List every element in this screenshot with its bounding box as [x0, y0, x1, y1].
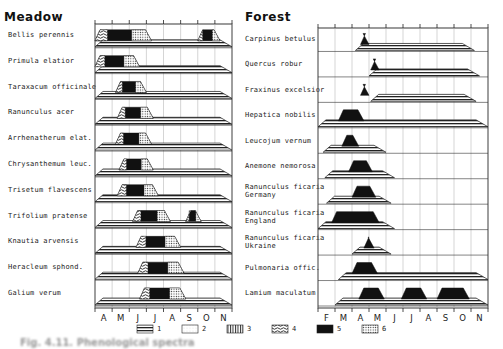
legend-key-3: 3: [247, 325, 251, 333]
legend: [137, 325, 378, 333]
phenology-chart: [0, 0, 503, 349]
figure-caption: Fig. 4.11. Phenological spectra: [20, 337, 195, 348]
legend-key-2: 2: [202, 325, 206, 333]
legend-key-6: 6: [382, 325, 386, 333]
legend-key-4: 4: [292, 325, 296, 333]
legend-key-5: 5: [337, 325, 341, 333]
legend-key-1: 1: [157, 325, 161, 333]
